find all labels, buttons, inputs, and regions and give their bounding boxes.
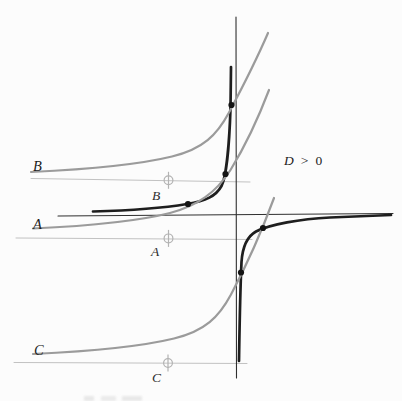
marker-label-a: A [151, 245, 159, 259]
intersection-dot-3 [228, 102, 234, 108]
cropped-caption-smudge [84, 396, 142, 401]
curve-c [33, 198, 274, 354]
condition-annotation: D > 0 [284, 154, 322, 168]
intersection-dot-4 [260, 225, 266, 231]
condition-rhs: 0 [315, 154, 322, 168]
asymptote-line-b [31, 179, 250, 183]
marker-label-b: B [152, 189, 160, 203]
figure-canvas: B A C B A C D > 0 [0, 0, 402, 401]
asymptote-line-c [14, 363, 247, 364]
asymptote-line-a [16, 238, 252, 240]
condition-operator: > [301, 154, 309, 168]
x-axis [58, 214, 393, 217]
curve-label-a-left: A [33, 217, 42, 232]
y-axis [236, 17, 237, 378]
condition-lhs: D [284, 154, 294, 168]
intersection-dot-5 [238, 269, 244, 275]
curve-label-b-left: B [33, 159, 42, 174]
intersection-dot-2 [222, 171, 228, 177]
plot-svg [0, 0, 402, 401]
curve-label-c-left: C [34, 343, 44, 358]
hyperbola-lower-branch [239, 215, 391, 361]
intersection-dot-1 [185, 201, 191, 207]
marker-label-c: C [152, 371, 161, 385]
